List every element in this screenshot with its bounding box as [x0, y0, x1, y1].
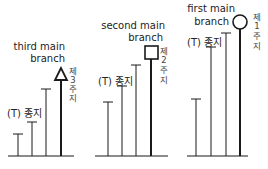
title-line-1: third main	[14, 41, 65, 52]
vertical-label-char-2: 1	[254, 21, 259, 31]
terminal-label: (T) 종지	[7, 108, 42, 119]
diagram-third-main-branch: third main branch (T) 종지 제 3 주 지	[7, 41, 77, 156]
vertical-label-char-2: 2	[161, 55, 166, 65]
circle-marker-icon	[233, 15, 247, 29]
title-line-1: first main	[187, 3, 235, 14]
vertical-label-char-4: 지	[253, 41, 261, 51]
vertical-label-char-4: 지	[69, 93, 77, 103]
title-line-2: branch	[30, 53, 65, 64]
vertical-label-char-3: 주	[253, 31, 261, 41]
diagram-second-main-branch: second main branch (T) 종지 제 2 주 지	[95, 20, 168, 156]
title-line-1: second main	[101, 20, 165, 31]
terminal-label: (T) 종지	[98, 76, 133, 87]
triangle-marker-icon	[55, 68, 67, 80]
square-marker-icon	[145, 46, 158, 59]
terminal-label: (T) 종지	[187, 37, 222, 48]
diagram-first-main-branch: first main branch (T) 종지 제 1 주 지	[187, 3, 261, 156]
branch-diagrams: third main branch (T) 종지 제 3 주 지 second …	[0, 0, 268, 169]
title-line-2: branch	[194, 16, 229, 27]
vertical-label-char-4: 지	[160, 75, 168, 85]
title-line-2: branch	[128, 32, 163, 43]
vertical-label-char-3: 주	[160, 65, 168, 75]
